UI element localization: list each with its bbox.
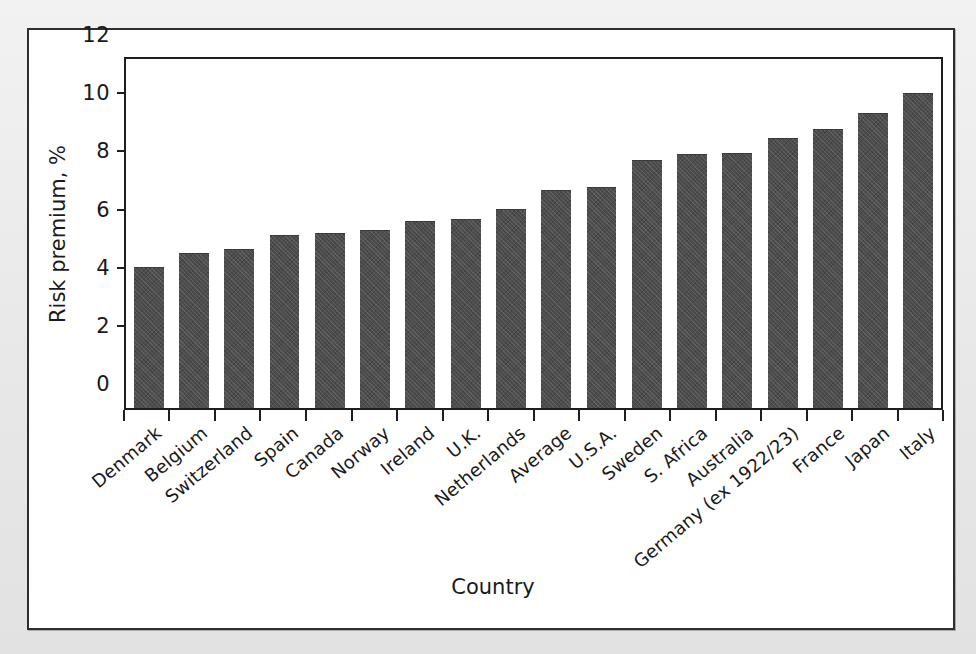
bar-cell [352, 59, 397, 408]
x-axis-tick-labels: DenmarkBelgiumSwitzerlandSpainCanadaNorw… [124, 422, 943, 572]
y-axis-tick-label: 12 [82, 23, 117, 47]
y-axis-tick-mark [117, 150, 126, 152]
x-axis-tick-label: France [788, 422, 848, 477]
bar [179, 253, 209, 408]
bar-cell [760, 59, 805, 408]
y-axis-tick-mark [117, 34, 126, 36]
x-axis-tick-label: Japan [841, 422, 894, 471]
bar [541, 190, 571, 408]
bar [768, 138, 798, 408]
x-axis-tick-mark [806, 410, 808, 421]
bar-cell [896, 59, 941, 408]
bar-cell [851, 59, 896, 408]
plot-wrapper: Risk premium, % 024681012 DenmarkBelgium… [29, 30, 957, 632]
x-axis-tick-mark [168, 410, 170, 421]
x-axis-tick-mark [578, 410, 580, 421]
bar [270, 235, 300, 408]
y-axis-tick: 8 [96, 139, 126, 163]
bar-cell [715, 59, 760, 408]
x-axis-title: Country [29, 575, 957, 599]
x-axis-tick-mark [942, 410, 944, 421]
x-axis-tick-mark [669, 410, 671, 421]
bar [722, 153, 752, 408]
y-axis-title-text: Risk premium, % [46, 145, 70, 323]
x-axis-ticks [124, 410, 943, 421]
bar-cell [624, 59, 669, 408]
plot-area: 024681012 [124, 57, 943, 410]
x-axis-tick-mark [624, 410, 626, 421]
x-axis-tick-mark [351, 410, 353, 421]
y-axis-tick-label: 2 [96, 314, 117, 338]
figure-frame: Risk premium, % 024681012 DenmarkBelgium… [27, 28, 955, 630]
bar-cell [669, 59, 714, 408]
y-axis-tick: 0 [96, 372, 126, 396]
y-axis-tick-label: 6 [96, 198, 117, 222]
bar-cell [307, 59, 352, 408]
y-axis-tick-mark [117, 383, 126, 385]
bar-cell [443, 59, 488, 408]
y-axis-tick-mark [117, 92, 126, 94]
bar-cell [171, 59, 216, 408]
x-axis-tick-mark [396, 410, 398, 421]
bar [224, 249, 254, 409]
bar [858, 113, 888, 408]
y-axis-tick-label: 4 [96, 256, 117, 280]
bar-cell [398, 59, 443, 408]
bar-cell [217, 59, 262, 408]
y-axis-tick: 4 [96, 256, 126, 280]
x-axis-tick-mark [715, 410, 717, 421]
bar [360, 230, 390, 408]
bar [405, 221, 435, 408]
bar-series [126, 59, 941, 408]
y-axis-tick-label: 8 [96, 139, 117, 163]
bar [496, 209, 526, 408]
bar [587, 187, 617, 408]
y-axis-tick-mark [117, 209, 126, 211]
y-axis-tick: 2 [96, 314, 126, 338]
x-axis-tick-mark [214, 410, 216, 421]
x-axis-tick-label: Italy [895, 422, 939, 464]
y-axis-tick-label: 10 [82, 81, 117, 105]
x-axis-tick-mark [760, 410, 762, 421]
x-axis-tick-mark [123, 410, 125, 421]
bar-cell [534, 59, 579, 408]
bar [315, 233, 345, 409]
y-axis-tick-mark [117, 267, 126, 269]
x-axis-tick-mark [487, 410, 489, 421]
bar-cell [126, 59, 171, 408]
x-axis-tick-mark [305, 410, 307, 421]
y-axis-tick-mark [117, 325, 126, 327]
bar [903, 93, 933, 408]
x-axis-tick-mark [442, 410, 444, 421]
bar [134, 267, 164, 408]
bar-cell [488, 59, 533, 408]
x-axis-tick-mark [259, 410, 261, 421]
y-axis-tick: 6 [96, 198, 126, 222]
bar [451, 219, 481, 408]
bar-cell [579, 59, 624, 408]
bar-cell [805, 59, 850, 408]
x-axis-tick-mark [533, 410, 535, 421]
y-axis-tick: 12 [82, 23, 126, 47]
bar [813, 129, 843, 408]
y-axis-tick-label: 0 [96, 372, 117, 396]
y-axis-title: Risk premium, % [45, 57, 71, 410]
bar [677, 154, 707, 408]
x-axis-tick-mark [897, 410, 899, 421]
x-axis-tick-mark [851, 410, 853, 421]
bar-cell [262, 59, 307, 408]
bar [632, 160, 662, 408]
y-axis-tick: 10 [82, 81, 126, 105]
